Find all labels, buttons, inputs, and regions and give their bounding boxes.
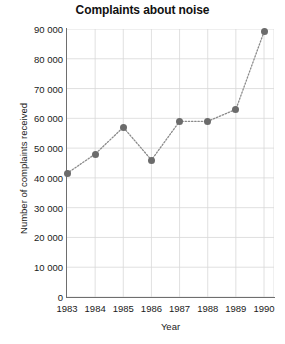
y-axis-tick-label: 30 000: [3, 202, 63, 213]
x-axis-tick-label: 1990: [253, 303, 274, 314]
data-point-markers: [67, 29, 274, 297]
y-axis-tick-label: 0: [3, 292, 63, 303]
plot-area: [67, 29, 274, 297]
data-point-marker: [232, 106, 239, 113]
x-axis-title: Year: [67, 321, 274, 332]
x-axis-tick-label: 1984: [85, 303, 106, 314]
y-axis-tick-label: 50 000: [3, 143, 63, 154]
y-axis-tick-labels: 010 00020 00030 00040 00050 00060 00070 …: [0, 0, 63, 344]
data-point-marker: [120, 124, 127, 131]
data-point-marker: [64, 170, 71, 177]
x-axis-tick-label: 1986: [141, 303, 162, 314]
y-axis-tick-label: 60 000: [3, 113, 63, 124]
chart-figure: Complaints about noise Number of complai…: [0, 0, 285, 344]
x-axis-tick-label: 1985: [113, 303, 134, 314]
x-axis-tick-label: 1987: [169, 303, 190, 314]
data-point-marker: [204, 118, 211, 125]
data-point-marker: [92, 151, 99, 158]
data-point-marker: [176, 118, 183, 125]
y-axis-tick-label: 80 000: [3, 53, 63, 64]
y-axis-tick-label: 20 000: [3, 232, 63, 243]
y-axis-tick-label: 90 000: [3, 24, 63, 35]
y-axis-tick-label: 10 000: [3, 262, 63, 273]
data-point-marker: [261, 28, 268, 35]
x-axis-tick-label: 1983: [56, 303, 77, 314]
x-axis-tick-label: 1988: [197, 303, 218, 314]
y-axis-tick-label: 40 000: [3, 172, 63, 183]
data-point-marker: [148, 157, 155, 164]
x-axis-tick-label: 1989: [225, 303, 246, 314]
y-axis-tick-label: 70 000: [3, 83, 63, 94]
